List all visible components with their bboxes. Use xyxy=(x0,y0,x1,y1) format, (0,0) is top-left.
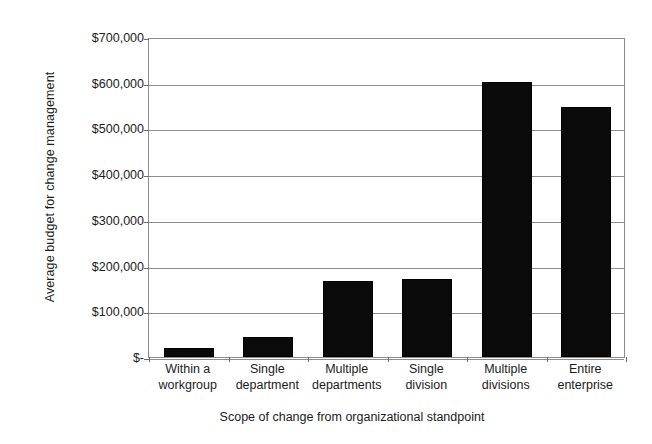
x-tick-mark xyxy=(626,357,627,362)
x-axis-title: Scope of change from organizational stan… xyxy=(0,410,652,424)
x-tick-label: Singledepartment xyxy=(228,362,308,393)
bar xyxy=(323,281,373,357)
bar xyxy=(243,337,293,357)
y-tick-label: $600,000 xyxy=(56,77,144,91)
y-tick-label: $- xyxy=(56,351,144,365)
y-tick-label: $300,000 xyxy=(56,214,144,228)
x-tick-label: Singledivision xyxy=(387,362,467,393)
bar xyxy=(561,107,611,357)
y-tick-label: $400,000 xyxy=(56,168,144,182)
y-tick-label: $500,000 xyxy=(56,122,144,136)
bars-layer xyxy=(149,39,624,357)
bar xyxy=(164,348,214,357)
bar xyxy=(402,279,452,357)
y-tick-label: $100,000 xyxy=(56,305,144,319)
x-tick-label: Within aworkgroup xyxy=(148,362,228,393)
y-tick-label: $700,000 xyxy=(56,31,144,45)
bar-chart: Average budget for change management $-$… xyxy=(0,0,652,444)
x-tick-label: Multipledivisions xyxy=(466,362,546,393)
y-axis-tick-labels: $-$100,000$200,000$300,000$400,000$500,0… xyxy=(56,0,144,444)
y-axis-title: Average budget for change management xyxy=(43,37,57,337)
gridline xyxy=(149,359,624,360)
bar xyxy=(482,82,532,357)
y-tick-label: $200,000 xyxy=(56,260,144,274)
x-tick-label: Multipledepartments xyxy=(307,362,387,393)
x-axis-tick-labels: Within aworkgroupSingledepartmentMultipl… xyxy=(148,362,625,402)
plot-area xyxy=(148,38,625,358)
x-tick-label: Entireenterprise xyxy=(546,362,626,393)
